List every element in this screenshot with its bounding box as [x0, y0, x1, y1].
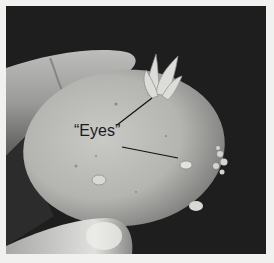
eye-center — [180, 161, 192, 169]
eye-lower-left — [92, 175, 106, 185]
eyes-label: “Eyes” — [74, 123, 120, 139]
potato-photo — [6, 6, 266, 254]
potato-illustration — [6, 6, 266, 254]
eye-bottom — [189, 201, 203, 211]
